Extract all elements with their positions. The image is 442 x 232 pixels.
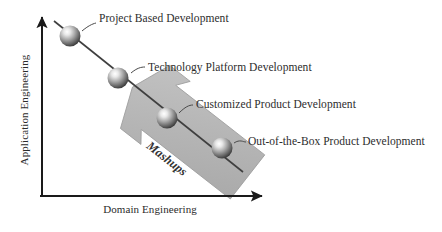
mashups-band-group	[108, 56, 272, 209]
diagram-figure	[0, 0, 442, 232]
diagram-canvas: Application Engineering Domain Engineeri…	[0, 0, 442, 232]
label-out-of-the-box-product-development: Out-of-the-Box Product Development	[248, 135, 425, 147]
data-point-technology-platform[interactable]	[108, 68, 129, 89]
mashups-band-arrow	[108, 56, 272, 209]
label-project-based-development: Project Based Development	[99, 12, 229, 24]
leader-line-technology-platform	[131, 67, 145, 73]
leader-line-project-based	[82, 23, 96, 31]
data-point-customized-product[interactable]	[157, 108, 178, 129]
data-point-out-of-the-box[interactable]	[212, 138, 233, 159]
label-technology-platform-development: Technology Platform Development	[148, 61, 312, 73]
x-axis-label: Domain Engineering	[85, 203, 215, 215]
y-axis-label: Application Engineering	[18, 45, 30, 175]
label-customized-product-development: Customized Product Development	[196, 98, 356, 110]
data-point-project-based[interactable]	[60, 26, 81, 47]
